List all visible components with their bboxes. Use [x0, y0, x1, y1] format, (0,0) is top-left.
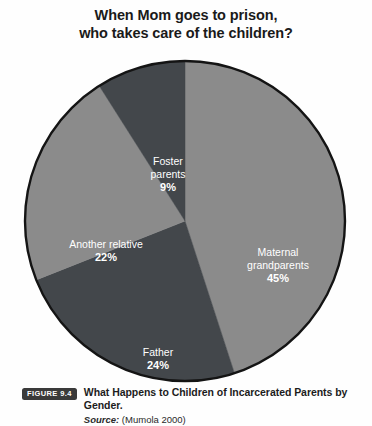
figure-number-badge: FIGURE 9.4: [22, 388, 77, 401]
pie-chart-svg: Maternalgrandparents45%Father24%Another …: [20, 58, 350, 384]
chart-title-line-1: When Mom goes to prison,: [0, 6, 372, 24]
chart-title: When Mom goes to prison, who takes care …: [0, 6, 372, 42]
caption-title: What Happens to Children of Incarcerated…: [84, 386, 358, 412]
caption-source-value: (Mumola 2000): [122, 414, 186, 425]
chart-title-line-2: who takes care of the children?: [0, 24, 372, 42]
pie-chart: Maternalgrandparents45%Father24%Another …: [20, 58, 350, 384]
caption-source: Source: (Mumola 2000): [84, 413, 358, 426]
pie-slice-group: [25, 61, 345, 381]
figure-container: When Mom goes to prison, who takes care …: [0, 0, 372, 426]
caption-source-label: Source:: [84, 414, 119, 425]
figure-caption: FIGURE 9.4 What Happens to Children of I…: [22, 386, 358, 426]
